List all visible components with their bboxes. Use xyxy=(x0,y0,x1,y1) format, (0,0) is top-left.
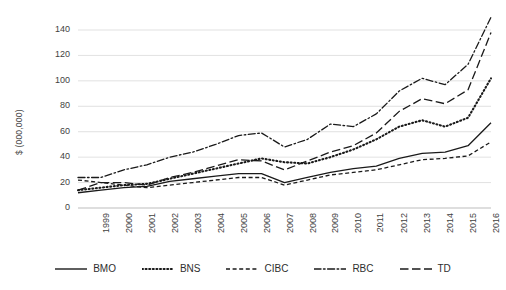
line-chart: $ (000,000) 020406080100120140 199920002… xyxy=(0,0,506,290)
legend-item-td[interactable]: TD xyxy=(400,264,451,274)
x-axis-tick-label: 2007 xyxy=(286,213,295,233)
y-axis-title: $ (000,000) xyxy=(14,109,24,155)
x-axis-tick-label: 2006 xyxy=(263,213,272,233)
x-axis-tick-label: 2011 xyxy=(377,213,386,232)
x-axis-tick-label: 2014 xyxy=(446,213,455,233)
x-axis-tick-label: 2002 xyxy=(171,213,180,233)
plot-area xyxy=(0,0,506,290)
x-axis-tick-label: 1999 xyxy=(102,213,111,233)
legend-label: BNS xyxy=(180,264,201,274)
legend-label: TD xyxy=(438,264,451,274)
x-axis-tick-label: 2013 xyxy=(423,213,432,233)
y-axis-tick-label: 60 xyxy=(44,127,70,136)
legend-swatch-rbc-icon xyxy=(314,264,346,274)
x-axis-tick-label: 2001 xyxy=(148,213,157,233)
x-axis-tick-label: 2008 xyxy=(309,213,318,233)
x-axis-tick-label: 2003 xyxy=(194,213,203,233)
y-axis-tick-label: 100 xyxy=(44,76,70,85)
legend-item-bns[interactable]: BNS xyxy=(142,264,201,274)
x-axis-tick-label: 2005 xyxy=(240,213,249,233)
x-axis-tick-label: 2000 xyxy=(125,213,134,233)
y-axis-tick-label: 140 xyxy=(44,25,70,34)
legend-item-rbc[interactable]: RBC xyxy=(314,264,373,274)
y-axis-tick-label: 120 xyxy=(44,50,70,59)
legend-label: CIBC xyxy=(264,264,288,274)
x-axis-tick-label: 2016 xyxy=(492,213,501,233)
legend-swatch-bns-icon xyxy=(142,264,174,274)
legend-label: BMO xyxy=(93,264,116,274)
legend-label: RBC xyxy=(352,264,373,274)
x-axis-tick-label: 2015 xyxy=(469,213,478,233)
legend-swatch-bmo-icon xyxy=(55,264,87,274)
y-axis-tick-label: 40 xyxy=(44,152,70,161)
series-line-bns xyxy=(78,78,491,190)
y-axis-tick-label: 80 xyxy=(44,101,70,110)
chart-legend: BMOBNSCIBCRBCTD xyxy=(0,258,506,280)
series-line-cibc xyxy=(78,142,491,188)
x-axis-tick-label: 2009 xyxy=(331,213,340,233)
y-axis-tick-label: 0 xyxy=(44,203,70,212)
legend-item-cibc[interactable]: CIBC xyxy=(226,264,288,274)
x-axis-tick-label: 2012 xyxy=(400,213,409,233)
legend-swatch-cibc-icon xyxy=(226,264,258,274)
x-axis-tick-label: 2010 xyxy=(354,213,363,233)
y-axis-tick-label: 20 xyxy=(44,178,70,187)
legend-item-bmo[interactable]: BMO xyxy=(55,264,116,274)
x-axis-tick-label: 2004 xyxy=(217,213,226,233)
legend-swatch-td-icon xyxy=(400,264,432,274)
